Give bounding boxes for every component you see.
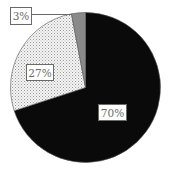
label-3pct: 3% bbox=[11, 8, 32, 25]
label-70pct: 70% bbox=[99, 105, 127, 121]
pie-slices bbox=[10, 13, 160, 163]
label-text-70pct: 70% bbox=[101, 107, 124, 119]
pie-chart: 3% 27% 70% bbox=[0, 0, 169, 169]
label-text-27pct: 27% bbox=[28, 67, 51, 79]
label-27pct: 27% bbox=[27, 65, 54, 81]
label-text-3pct: 3% bbox=[13, 10, 30, 22]
